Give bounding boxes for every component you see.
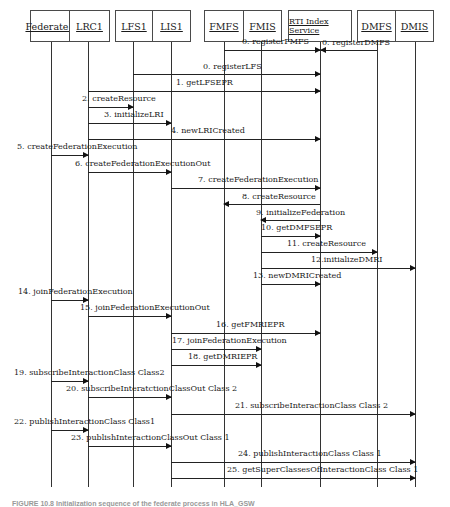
participant-dmis: DMIS — [395, 10, 434, 42]
lifeline-lis1 — [171, 42, 172, 487]
message-arrow — [171, 333, 320, 334]
message-label: 24. publishInteractionClass Class 1 — [238, 449, 382, 459]
message-label: 25. getSuperClassesOfInteractionClass Cl… — [227, 465, 418, 475]
message-arrow — [171, 188, 320, 189]
participant-lfs1: LFS1 — [115, 10, 153, 42]
message-label: 0. registerDMFS — [322, 38, 390, 48]
participant-federate1: Federate1 — [30, 10, 70, 42]
message-arrow — [88, 316, 171, 317]
message-arrow — [88, 172, 171, 173]
message-arrow — [88, 397, 171, 398]
message-arrow — [261, 252, 377, 253]
message-label: 1. getLFSEPR — [176, 78, 233, 88]
arrowhead-right-icon — [315, 136, 321, 142]
message-label: 18. getDMRIEPR — [188, 352, 257, 362]
sequence-diagram: Federate1 LRC1 LFS1 LIS1 FMFS FMIS RTI I… — [0, 0, 450, 507]
arrowhead-right-icon — [315, 330, 321, 336]
message-label: 20. subscribeInteratctionClassOut Class … — [66, 384, 237, 394]
message-arrow — [51, 381, 88, 382]
message-label: 19. subscribeInteractionClass Class2 — [14, 368, 165, 378]
arrowhead-right-icon — [166, 313, 172, 319]
message-label: 8. createResource — [242, 192, 316, 202]
message-label: 12.initializeDMRI — [311, 255, 382, 265]
message-arrow — [51, 300, 88, 301]
message-arrow — [261, 268, 415, 269]
message-label: 15. joinFederationExecutionOut — [80, 303, 210, 313]
arrowhead-right-icon — [315, 281, 321, 287]
message-arrow — [224, 204, 320, 205]
arrowhead-right-icon — [83, 152, 89, 158]
message-arrow — [171, 478, 415, 479]
message-arrow — [88, 139, 320, 140]
message-arrow — [171, 414, 415, 415]
arrowhead-right-icon — [315, 88, 321, 94]
message-arrow — [321, 50, 377, 51]
message-label: 14. joinFederationExecution — [18, 287, 133, 297]
message-label: 16. getFMRIEPR — [216, 320, 285, 330]
message-label: 3. initializeLRI — [104, 110, 164, 120]
message-arrow — [224, 50, 320, 51]
message-label: 10. getDMFSEPR — [261, 223, 332, 233]
message-label: 2. createResource — [82, 94, 156, 104]
message-arrow — [261, 284, 320, 285]
lifeline-fmis — [261, 42, 262, 487]
arrowhead-right-icon — [410, 265, 416, 271]
arrowhead-right-icon — [410, 411, 416, 417]
message-label: 0. registerFMFS — [242, 37, 309, 47]
message-arrow — [171, 349, 261, 350]
arrowhead-right-icon — [166, 394, 172, 400]
arrowhead-left-icon — [223, 201, 229, 207]
lifeline-fmfs — [224, 42, 225, 487]
message-label: 11. createResource — [287, 239, 366, 249]
arrowhead-right-icon — [315, 71, 321, 77]
message-arrow — [51, 155, 88, 156]
participant-lis1: LIS1 — [152, 10, 191, 42]
message-label: 7. createFederationExecution — [198, 175, 318, 185]
message-arrow — [51, 430, 88, 431]
arrowhead-right-icon — [256, 362, 262, 368]
message-arrow — [88, 446, 171, 447]
arrowhead-right-icon — [315, 185, 321, 191]
arrowhead-right-icon — [410, 475, 416, 481]
message-arrow — [171, 462, 415, 463]
message-label: 17. joinFederationExecution — [172, 336, 287, 346]
message-label: 13. newDMRICreated — [253, 271, 341, 281]
message-label: 5. createFederationExecution — [17, 142, 137, 152]
message-label: 6. createFederationExecutionOut — [75, 159, 210, 169]
participant-fmfs: FMFS — [204, 10, 244, 42]
message-arrow — [88, 91, 320, 92]
message-arrow — [261, 236, 320, 237]
message-label: 9. initializeFederation — [256, 208, 345, 218]
message-arrow — [88, 123, 171, 124]
message-label: 22. publishInteractionClass Class1 — [14, 417, 155, 427]
arrowhead-right-icon — [166, 443, 172, 449]
message-label: 0. registerLFS — [203, 62, 262, 72]
message-arrow — [261, 220, 320, 221]
message-arrow — [171, 365, 261, 366]
message-label: 21. subscribeInteractionClass Class 2 — [235, 401, 388, 411]
figure-caption: FIGURE 10.8 Initialization sequence of t… — [12, 500, 255, 507]
message-label: 23. publishInteractionClassOut Class 1 — [71, 433, 230, 443]
message-arrow — [133, 74, 320, 75]
message-arrow — [88, 107, 133, 108]
arrowhead-right-icon — [166, 169, 172, 175]
participant-lrc1: LRC1 — [69, 10, 110, 42]
message-label: 4. newLRICreated — [171, 126, 245, 136]
